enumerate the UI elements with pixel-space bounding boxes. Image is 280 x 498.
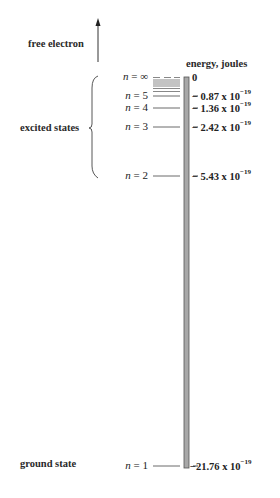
- energy-value-n2: − 5.43 x 10−19: [192, 169, 251, 182]
- level-label-n3: n = 3: [88, 120, 148, 132]
- energy-ticks: [193, 96, 198, 466]
- level-label-n1: n = 1: [88, 459, 148, 471]
- level-lines-converging: [153, 78, 180, 92]
- energy-bar: [184, 77, 189, 468]
- level-lines: [153, 96, 180, 466]
- level-label-n4: n = 4: [88, 101, 148, 113]
- energy-value-n1: −21.76 x 10−19: [190, 459, 252, 472]
- energy-value-n3: − 2.42 x 10−19: [192, 120, 251, 133]
- energy-value-n-inf: 0: [192, 72, 197, 83]
- level-label-n2: n = 2: [88, 169, 148, 181]
- level-label-n-inf: n = ∞: [88, 70, 148, 82]
- level-label-n5: n = 5: [88, 89, 148, 101]
- energy-value-n4: − 1.36 x 10−19: [192, 101, 251, 114]
- arrow-up-icon: [96, 18, 101, 62]
- ground-state-label: ground state: [20, 458, 76, 469]
- excited-states-label: excited states: [20, 122, 79, 133]
- energy-axis-title: energy, joules: [186, 58, 247, 69]
- free-electron-label: free electron: [28, 38, 84, 49]
